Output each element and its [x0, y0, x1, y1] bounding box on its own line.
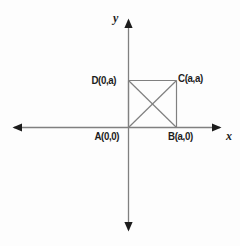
- x-axis-arrow-right-icon: [212, 123, 222, 131]
- vertex-label-B: B(a,0): [168, 131, 193, 142]
- x-axis-arrow-left-icon: [13, 123, 23, 131]
- vertex-label-C: C(a,a): [178, 73, 203, 84]
- vertex-label-D: D(0,a): [91, 75, 116, 86]
- y-axis-label: y: [113, 12, 118, 24]
- diagram-canvas: [0, 0, 240, 246]
- y-axis-arrow-up-icon: [124, 19, 132, 29]
- vertex-label-A: A(0,0): [94, 131, 119, 142]
- geometry-diagram: D(0,a) C(a,a) A(0,0) B(a,0) x y: [0, 0, 240, 246]
- axes-group: [13, 19, 222, 232]
- x-axis-label: x: [226, 130, 232, 142]
- y-axis-arrow-down-icon: [124, 222, 132, 232]
- square-diagonals-group: [129, 81, 177, 128]
